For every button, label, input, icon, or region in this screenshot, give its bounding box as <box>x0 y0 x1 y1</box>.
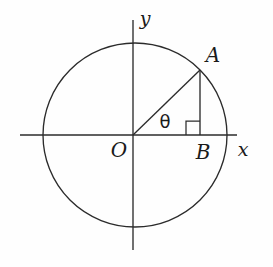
point-b-label: B <box>196 142 211 162</box>
trigonometry-figure: y x O A B θ <box>0 0 273 267</box>
right-angle-marker <box>186 121 200 135</box>
point-a-label: A <box>206 45 220 65</box>
x-axis-label: x <box>238 140 249 159</box>
y-axis-label: y <box>140 9 151 28</box>
origin-label: O <box>111 140 127 160</box>
figure-canvas <box>0 0 273 267</box>
angle-theta-label: θ <box>159 113 170 131</box>
